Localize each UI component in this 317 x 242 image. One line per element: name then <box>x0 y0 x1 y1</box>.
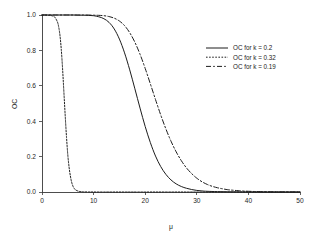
x-tick-label: 50 <box>296 197 304 204</box>
y-tick-label: 0.8 <box>27 47 36 54</box>
x-axis-tick-labels: 01020304050 <box>40 197 304 204</box>
y-axis-tick-labels: 0.00.20.40.60.81.0 <box>27 11 36 195</box>
x-axis-title: μ <box>169 223 173 231</box>
oc-curve-figure: 01020304050 0.00.20.40.60.81.0 μ OC OC f… <box>0 0 317 242</box>
legend-label-1: OC for k = 0.32 <box>233 54 276 61</box>
x-tick-label: 40 <box>245 197 253 204</box>
y-axis-ticks <box>39 15 42 192</box>
x-tick-label: 30 <box>193 197 201 204</box>
legend-label-0: OC for k = 0.2 <box>233 44 273 51</box>
y-tick-label: 0.0 <box>27 188 36 195</box>
y-tick-label: 1.0 <box>27 11 36 18</box>
y-axis-title: OC <box>11 99 18 109</box>
y-tick-label: 0.2 <box>27 153 36 160</box>
y-tick-label: 0.6 <box>27 82 36 89</box>
x-tick-label: 20 <box>142 197 150 204</box>
x-tick-label: 0 <box>40 197 44 204</box>
plot-area-background <box>42 15 300 192</box>
x-tick-label: 10 <box>90 197 98 204</box>
chart-canvas: 01020304050 0.00.20.40.60.81.0 μ OC OC f… <box>0 0 317 242</box>
legend-label-2: OC for k = 0.19 <box>233 63 276 70</box>
y-tick-label: 0.4 <box>27 118 36 125</box>
